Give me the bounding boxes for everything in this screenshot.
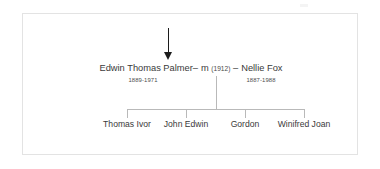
child-stub [186,109,187,118]
union-descender-line [216,76,217,109]
diagram-canvas: Edwin Thomas Palmer– m (1912) – Nellie F… [0,0,380,169]
spouse-right-name: Nellie Fox [241,63,282,73]
union-line: Edwin Thomas Palmer– m (1912) – Nellie F… [1,63,380,74]
union-dash-left: – [193,63,199,73]
document-frame: Edwin Thomas Palmer– m (1912) – Nellie F… [22,13,358,155]
spouse-left-dates: 1889-1971 [105,76,181,84]
scan-artifact-mark [300,4,308,7]
spouse-left-name: Edwin Thomas Palmer [99,63,192,73]
marriage-symbol: m [201,63,209,73]
child-stub [304,109,305,118]
child-stub [127,109,128,118]
arrow-head-icon [164,52,172,60]
child-stub [245,109,246,118]
arrow-shaft [168,28,169,54]
union-dash-right: – [233,63,239,73]
marriage-year: (1912) [211,65,230,72]
sibling-connector-bar [127,109,304,110]
spouse-right-dates: 1887-1988 [223,76,299,84]
child-name: Winifred Joan [264,119,344,130]
